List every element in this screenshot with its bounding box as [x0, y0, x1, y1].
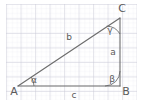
vertex-label-A: A — [10, 85, 18, 98]
side-label-c: c — [72, 90, 77, 100]
vertex-label-C: C — [118, 2, 126, 15]
vertex-label-B: B — [122, 85, 130, 98]
figure-canvas: A B C a b c α β γ — [0, 0, 143, 107]
side-label-b: b — [66, 32, 72, 42]
angle-label-gamma: γ — [107, 25, 113, 35]
triangle-diagram: A B C a b c α β γ — [0, 0, 143, 107]
side-label-a: a — [110, 47, 116, 57]
angle-label-beta: β — [109, 74, 115, 84]
angle-label-alpha: α — [31, 75, 37, 85]
